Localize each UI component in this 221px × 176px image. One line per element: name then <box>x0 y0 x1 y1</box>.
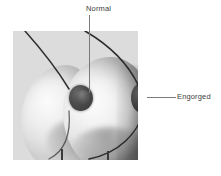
contour-lines <box>13 31 138 160</box>
label-normal: Normal <box>86 5 111 13</box>
illustration-canvas: Normal Engorged <box>0 0 221 176</box>
contour-right-upper <box>85 31 138 89</box>
leader-line-engorged <box>147 97 176 98</box>
contour-right-lower <box>89 109 138 159</box>
contour-left-upper <box>25 31 69 89</box>
leader-line-normal <box>89 15 90 93</box>
photo-panel <box>13 31 138 160</box>
chest-wall-mark-left <box>61 149 63 160</box>
chest-wall-mark-right <box>107 151 109 160</box>
label-engorged: Engorged <box>177 93 211 101</box>
contour-left-lower <box>49 111 69 159</box>
